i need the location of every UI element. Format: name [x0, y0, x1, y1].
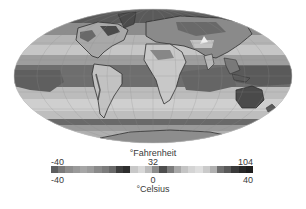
celsius-tick-min: -40	[51, 175, 64, 185]
colorbar-step	[51, 166, 58, 173]
colorbar-step	[58, 166, 65, 173]
colorbar-step	[94, 166, 101, 173]
colorbar-step	[195, 166, 202, 173]
colorbar-step	[174, 166, 181, 173]
colorbar-step	[224, 166, 231, 173]
colorbar-step	[87, 166, 94, 173]
colorbar-step	[116, 166, 123, 173]
colorbar-step	[80, 166, 87, 173]
colorbar-step	[167, 166, 174, 173]
colorbar-step	[123, 166, 130, 173]
colorbar-step	[181, 166, 188, 173]
colorbar-step	[231, 166, 238, 173]
temperature-colorbar	[51, 166, 253, 173]
colorbar-step	[73, 166, 80, 173]
colorbar-step	[138, 166, 145, 173]
colorbar-step	[246, 166, 253, 173]
colorbar-step	[145, 166, 152, 173]
colorbar-step	[130, 166, 137, 173]
colorbar-step	[239, 166, 246, 173]
celsius-tick-max: 40	[243, 175, 253, 185]
colorbar-step	[188, 166, 195, 173]
world-temperature-map	[0, 0, 306, 150]
colorbar-step	[102, 166, 109, 173]
colorbar-step	[217, 166, 224, 173]
colorbar-step	[203, 166, 210, 173]
colorbar-step	[210, 166, 217, 173]
celsius-unit-label: °Celsius	[136, 184, 169, 194]
colorbar-step	[109, 166, 116, 173]
colorbar-step	[152, 166, 159, 173]
colorbar-step	[65, 166, 72, 173]
colorbar-step	[159, 166, 166, 173]
